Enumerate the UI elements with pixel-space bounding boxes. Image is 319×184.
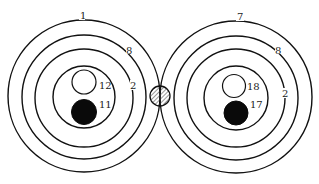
- two-ring-systems-diagram: 1 8 2 12 11 7 8 2 18 17: [0, 0, 319, 184]
- left-third-ring: [35, 49, 133, 147]
- right-ring-system: 7 8 2 18 17: [160, 11, 312, 173]
- left-outer-ring-label: 1: [80, 10, 86, 21]
- left-filled-circle: [72, 100, 97, 125]
- right-third-ring: [187, 49, 285, 147]
- left-open-circle: [72, 70, 96, 94]
- right-second-ring-label: 8: [275, 45, 281, 56]
- right-open-circle-label: 18: [247, 81, 260, 92]
- right-third-ring-label: 2: [282, 88, 288, 99]
- left-open-circle-label: 12: [99, 80, 112, 91]
- left-filled-circle-label: 11: [99, 99, 112, 110]
- left-outer-ring: [8, 20, 160, 172]
- left-second-ring-label: 8: [126, 45, 132, 56]
- left-third-ring-label: 2: [130, 80, 136, 91]
- hatched-junction-circle: [150, 86, 170, 106]
- left-ring-system: 1 8 2 12 11: [8, 10, 160, 172]
- right-outer-ring-label: 7: [237, 11, 243, 22]
- right-filled-circle-label: 17: [250, 99, 263, 110]
- right-open-circle: [223, 75, 246, 98]
- right-filled-circle: [224, 101, 248, 125]
